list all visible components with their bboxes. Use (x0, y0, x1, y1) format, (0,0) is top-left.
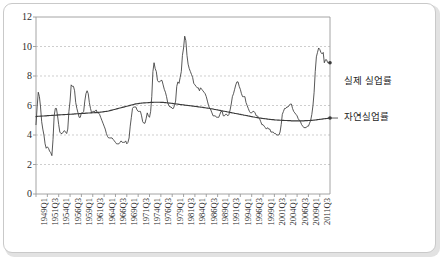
series-line (36, 102, 330, 121)
x-axis-tick-label: 1976Q3 (164, 198, 173, 225)
x-axis-tick-label: 1951Q3 (51, 198, 60, 225)
plot-canvas (36, 17, 330, 194)
x-axis-tick-label: 1981Q3 (187, 198, 196, 225)
x-axis-tick-label: 1991Q3 (232, 198, 241, 225)
actual-series-endpoint (328, 61, 332, 65)
grid-lines (36, 17, 330, 165)
y-axis-tick-label: 10 (2, 42, 32, 52)
x-axis-tick-label: 1989Q1 (221, 198, 230, 225)
x-axis-tick-labels: 1949Q11951Q31954Q11956Q31959Q11961Q31964… (36, 198, 330, 258)
y-axis-tick-labels: 024681012 (0, 17, 32, 194)
x-axis-tick-label: 2011Q3 (323, 198, 332, 225)
x-axis-tick-label: 1966Q3 (119, 198, 128, 225)
actual-unemployment-label: 실제 실업률 (344, 73, 392, 87)
plot-area (36, 17, 330, 194)
x-axis-tick-label: 2004Q1 (289, 198, 298, 225)
x-axis-tick-label: 1954Q1 (62, 198, 71, 225)
x-axis-tick-label: 1974Q1 (153, 198, 162, 225)
y-axis-tick-label: 12 (2, 12, 32, 22)
x-axis-tick-label: 1984Q1 (198, 198, 207, 225)
x-axis-tick-label: 2001Q3 (278, 198, 287, 225)
natural-unemployment-label: 자연실업률 (344, 109, 389, 123)
x-axis-tick-label: 1979Q1 (176, 198, 185, 225)
x-axis-tick-label: 1994Q1 (244, 198, 253, 225)
x-axis-tick-label: 2006Q3 (301, 198, 310, 225)
x-axis-tick-label: 1949Q1 (40, 198, 49, 225)
x-axis-tick-label: 1956Q3 (74, 198, 83, 225)
x-axis-tick-label: 1961Q3 (96, 198, 105, 225)
x-axis-tick-label: 1971Q3 (142, 198, 151, 225)
x-axis-tick-label: 1996Q3 (255, 198, 264, 225)
x-axis-tick-label: 1999Q1 (267, 198, 276, 225)
x-axis-tick-label: 2009Q1 (312, 198, 321, 225)
data-series-group (36, 36, 338, 155)
chart-figure: 024681012 1949Q11951Q31954Q11956Q31959Q1… (0, 0, 443, 261)
y-axis-tick-marks (33, 17, 36, 194)
y-axis-tick-label: 6 (2, 101, 32, 111)
plot-wrapper: 024681012 1949Q11951Q31954Q11956Q31959Q1… (0, 0, 443, 261)
x-axis-tick-label: 1969Q1 (130, 198, 139, 225)
y-axis-tick-label: 8 (2, 71, 32, 81)
x-axis-tick-label: 1964Q1 (108, 198, 117, 225)
series-line (36, 36, 330, 155)
x-axis-tick-label: 1986Q3 (210, 198, 219, 225)
y-axis-tick-label: 4 (2, 130, 32, 140)
y-axis-tick-label: 2 (2, 160, 32, 170)
y-axis-tick-label: 0 (2, 189, 32, 199)
x-axis-tick-label: 1959Q1 (85, 198, 94, 225)
